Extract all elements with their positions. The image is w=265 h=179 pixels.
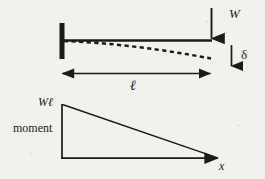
max-moment-label: Wℓ — [38, 96, 53, 108]
moment-axis-label: moment — [13, 122, 52, 134]
span-length-label: ℓ — [130, 79, 136, 93]
cantilever-beam-figure: W δ ℓ Wℓ moment x — [0, 0, 265, 179]
moment-distribution-line — [63, 105, 218, 158]
x-axis-label: x — [219, 160, 224, 172]
deflection-label: δ — [241, 48, 247, 61]
beam-deflected-dashed-curve — [64, 41, 211, 59]
load-label: W — [229, 7, 240, 20]
